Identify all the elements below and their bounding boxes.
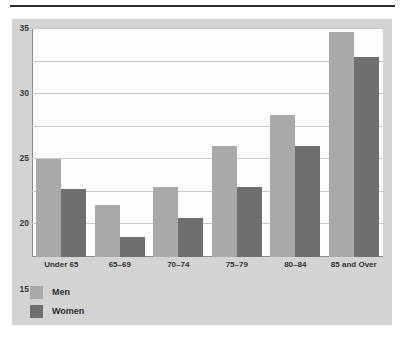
bar-women — [237, 187, 262, 257]
x-axis-label: 75–79 — [226, 261, 248, 269]
bar-group — [153, 29, 203, 257]
bar-group — [212, 29, 262, 257]
bar-women — [61, 189, 86, 257]
x-axis-label: 80–84 — [284, 261, 306, 269]
legend-item-women: Women — [30, 303, 84, 320]
bar-women — [295, 146, 320, 257]
bar-men — [153, 187, 178, 257]
bar-men — [36, 159, 61, 257]
x-axis-label: 65–69 — [109, 261, 131, 269]
y-axis-tick-label: 15 — [20, 284, 29, 293]
y-axis-tick-label: 25 — [20, 154, 29, 163]
bar-women — [178, 218, 203, 257]
bar-group — [329, 29, 379, 257]
bar-men — [270, 115, 295, 257]
legend-swatch-women-icon — [30, 305, 43, 318]
legend-swatch-men-icon — [30, 286, 43, 299]
x-axis-category-labels: Under 6565–6970–7475–7980–8485 and Over — [32, 261, 383, 275]
bar-men — [212, 146, 237, 257]
y-axis-tick-label: 35 — [20, 24, 29, 33]
legend-label-men: Men — [52, 288, 70, 297]
x-axis-label: 85 and Over — [331, 261, 377, 269]
y-axis-tick-label: 30 — [20, 89, 29, 98]
plot-area: 05101520253035 — [32, 29, 383, 257]
bar-group — [95, 29, 145, 257]
legend-label-women: Women — [52, 307, 84, 316]
bar-women — [120, 237, 145, 257]
bar-group — [36, 29, 86, 257]
bar-group — [270, 29, 320, 257]
bar-women — [354, 57, 379, 257]
bar-men — [329, 32, 354, 257]
bar-men — [95, 205, 120, 257]
top-divider-rule — [10, 5, 395, 7]
chart-legend: Men Women — [30, 284, 84, 322]
x-axis-label: 70–74 — [167, 261, 189, 269]
bars-layer — [32, 29, 383, 257]
legend-item-men: Men — [30, 284, 84, 301]
y-axis-tick-label: 20 — [20, 219, 29, 228]
x-axis-label: Under 65 — [44, 261, 78, 269]
chart-figure-panel: 05101520253035 — [12, 19, 392, 325]
